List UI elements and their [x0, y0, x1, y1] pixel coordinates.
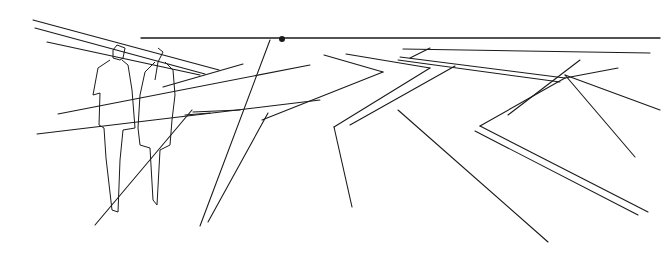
sketch-line	[398, 110, 548, 242]
sketch-line	[508, 60, 580, 115]
vanishing-point	[279, 36, 285, 42]
sketch-line	[403, 49, 650, 53]
sketch-line	[58, 65, 310, 114]
figure-man	[93, 45, 135, 212]
sketch-line	[350, 66, 455, 125]
sketch-line	[95, 110, 192, 225]
sketch-line	[565, 75, 635, 157]
perspective-lines	[33, 20, 660, 242]
sketch-line	[208, 113, 268, 222]
sketch-line	[480, 78, 565, 126]
sketch-line	[480, 126, 648, 212]
sketch-line	[398, 60, 560, 82]
sketch-line	[37, 100, 320, 134]
sketch-line	[334, 127, 352, 207]
perspective-sketch	[0, 0, 671, 262]
sketch-line	[163, 64, 243, 87]
sketch-line	[334, 68, 430, 127]
sketch-line	[346, 54, 430, 68]
sketch-line	[324, 55, 383, 72]
sketch-line	[35, 28, 205, 74]
figure-woman	[138, 48, 175, 205]
sketch-line	[565, 68, 618, 78]
sketch-canvas	[0, 0, 671, 262]
sketch-line	[475, 131, 638, 215]
walking-figures	[93, 45, 175, 212]
sketch-line	[262, 72, 383, 120]
